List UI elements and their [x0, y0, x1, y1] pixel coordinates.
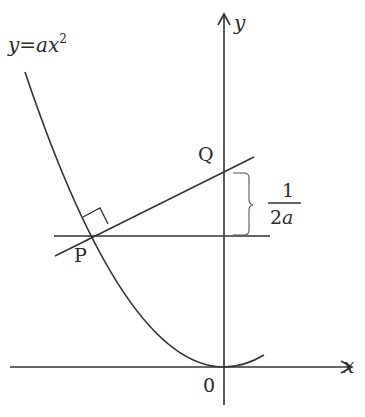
y-axis — [218, 14, 230, 405]
x-axis-label: x — [343, 354, 354, 378]
parabola-diagram: y=ax2 y x 0 Q P 1 2a — [0, 0, 365, 417]
point-q-label: Q — [198, 143, 214, 165]
parabola-curve — [25, 72, 264, 367]
distance-brace — [233, 173, 253, 235]
x-axis — [10, 361, 352, 373]
y-axis-label: y — [233, 11, 246, 35]
origin-label: 0 — [203, 374, 215, 396]
distance-fraction-label: 1 2a — [268, 179, 301, 228]
point-p-label: P — [74, 244, 87, 266]
right-angle-marker — [83, 208, 108, 224]
fraction-numerator: 1 — [282, 179, 294, 201]
fraction-denominator: 2a — [270, 206, 293, 228]
curve-label: y=ax2 — [7, 32, 67, 57]
